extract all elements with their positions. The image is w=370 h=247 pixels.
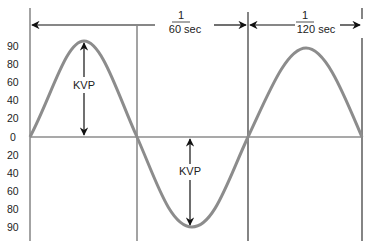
sine-wave-diagram: 1 60 sec 1 120 sec KVP KVP 90 80 60 40 2… bbox=[0, 0, 370, 247]
y-label-90-bottom: 90 bbox=[7, 221, 19, 233]
half-period-numerator: 1 bbox=[302, 9, 308, 21]
y-label-80-top: 80 bbox=[7, 58, 19, 70]
y-label-40-top: 40 bbox=[7, 94, 19, 106]
y-label-60-bottom: 60 bbox=[7, 185, 19, 197]
half-period-denominator: 120 sec bbox=[297, 23, 336, 35]
period-denominator: 60 sec bbox=[169, 23, 202, 35]
sine-wave bbox=[30, 41, 362, 227]
y-label-20-bottom: 20 bbox=[7, 149, 19, 161]
y-label-20-top: 20 bbox=[7, 112, 19, 124]
y-label-90-top: 90 bbox=[7, 40, 19, 52]
y-label-40-bottom: 40 bbox=[7, 167, 19, 179]
y-label-60-top: 60 bbox=[7, 76, 19, 88]
period-numerator: 1 bbox=[178, 9, 184, 21]
kvp-positive-label: KVP bbox=[73, 79, 95, 91]
kvp-negative-label: KVP bbox=[179, 165, 201, 177]
y-axis-labels: 90 80 60 40 20 0 20 40 60 80 90 bbox=[7, 40, 19, 233]
y-label-80-bottom: 80 bbox=[7, 203, 19, 215]
y-label-0: 0 bbox=[10, 131, 16, 143]
